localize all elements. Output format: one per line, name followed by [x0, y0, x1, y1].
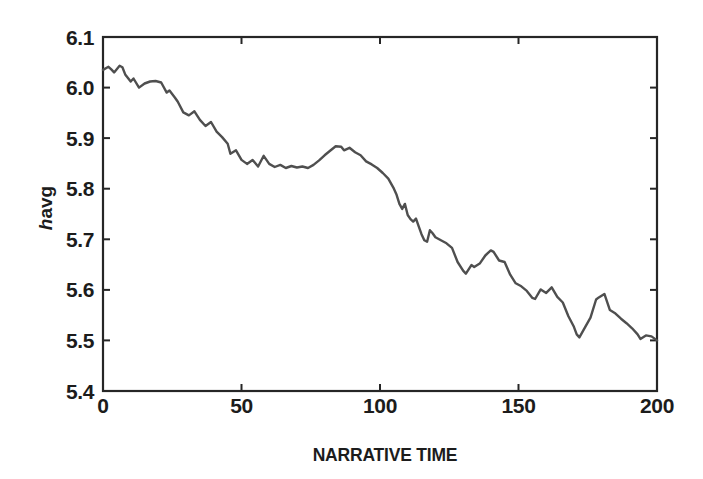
- x-tick-labels: 050100150200: [97, 394, 674, 417]
- y-tick-label: 5.7: [66, 228, 94, 251]
- figure: 050100150200 5.45.55.65.75.85.96.06.1 NA…: [0, 0, 703, 479]
- x-tick-label: 100: [363, 394, 397, 417]
- y-tick-label: 5.8: [66, 177, 95, 200]
- axis-ticks: [103, 37, 657, 391]
- line-chart: 050100150200 5.45.55.65.75.85.96.06.1 NA…: [0, 0, 703, 479]
- y-tick-label: 5.4: [66, 380, 95, 403]
- y-tick-label: 6.1: [66, 26, 95, 49]
- plot-border: [103, 37, 657, 391]
- x-tick-label: 200: [640, 394, 674, 417]
- y-tick-label: 5.9: [66, 127, 94, 150]
- y-tick-labels: 5.45.55.65.75.85.96.06.1: [66, 26, 95, 403]
- data-line: [103, 66, 657, 341]
- x-tick-label: 50: [230, 394, 253, 417]
- x-axis-label: NARRATIVE TIME: [313, 445, 458, 465]
- y-axis-label-avg: avg: [35, 186, 56, 219]
- y-tick-label: 5.5: [66, 329, 95, 352]
- y-tick-label: 6.0: [66, 76, 94, 99]
- x-tick-label: 150: [502, 394, 536, 417]
- y-tick-label: 5.6: [66, 278, 94, 301]
- y-axis-label-h: h: [35, 219, 56, 231]
- y-axis-label: havg: [35, 186, 56, 230]
- x-tick-label: 0: [97, 394, 108, 417]
